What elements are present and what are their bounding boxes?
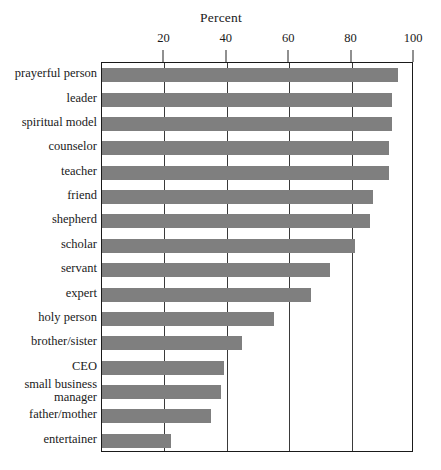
bar-row[interactable] [102,282,412,306]
bar[interactable] [102,68,398,82]
bar-row[interactable] [102,209,412,233]
bar[interactable] [102,117,392,131]
category-label: scholar [0,238,97,251]
category-label: friend [0,189,97,202]
bar-row[interactable] [102,136,412,160]
x-tick-label-100: 100 [404,31,423,46]
bar[interactable] [102,141,389,155]
bar[interactable] [102,312,274,326]
x-tick-mark-100 [413,50,414,62]
bar-row[interactable] [102,307,412,331]
category-axis-labels: prayerful personleaderspiritual modelcou… [0,62,97,452]
x-tick-label-40: 40 [220,31,233,46]
bar[interactable] [102,434,171,448]
plot-area [101,62,413,452]
category-label: brother/sister [0,335,97,348]
category-label: holy person [0,311,97,324]
category-label: spiritual model [0,116,97,129]
bar-row[interactable] [102,380,412,404]
bar[interactable] [102,385,221,399]
bars-layer [102,63,412,451]
category-label: counselor [0,140,97,153]
category-label: expert [0,287,97,300]
category-label: teacher [0,165,97,178]
bar-row[interactable] [102,112,412,136]
category-label: father/mother [0,408,97,421]
bar[interactable] [102,336,242,350]
bar[interactable] [102,190,373,204]
bar-row[interactable] [102,331,412,355]
bar-row[interactable] [102,404,412,428]
x-tick-label-20: 20 [157,31,170,46]
x-tick-label-60: 60 [282,31,295,46]
chart-title: Percent [41,10,401,26]
bar-row[interactable] [102,63,412,87]
category-label: small business manager [0,378,97,404]
category-label: leader [0,92,97,105]
bar-row[interactable] [102,185,412,209]
bar[interactable] [102,288,311,302]
bar-row[interactable] [102,234,412,258]
bar[interactable] [102,263,330,277]
bar[interactable] [102,361,224,375]
bar[interactable] [102,239,355,253]
x-tick-label-80: 80 [344,31,357,46]
bar[interactable] [102,166,389,180]
bar-row[interactable] [102,161,412,185]
category-label: entertainer [0,433,97,446]
bar-row[interactable] [102,429,412,453]
category-label: CEO [0,360,97,373]
bar-row[interactable] [102,356,412,380]
category-label: prayerful person [0,67,97,80]
percent-bar-chart: Percent 20406080100 prayerful personlead… [0,0,441,470]
bar[interactable] [102,93,392,107]
category-label: servant [0,262,97,275]
bar-row[interactable] [102,258,412,282]
category-label: shepherd [0,213,97,226]
bar-row[interactable] [102,87,412,111]
bar[interactable] [102,409,211,423]
bar[interactable] [102,214,370,228]
